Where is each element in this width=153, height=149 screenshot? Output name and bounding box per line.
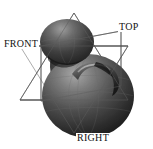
model-geometry[interactable] [40, 19, 134, 138]
view-label-front: FRONT [3, 39, 39, 49]
view-label-right: RIGHT [76, 133, 110, 143]
3d-model-viewport[interactable]: FRONT TOP RIGHT [0, 0, 153, 149]
view-label-top: TOP [118, 22, 140, 32]
